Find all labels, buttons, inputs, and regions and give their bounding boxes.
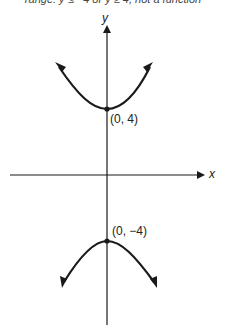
point-label-upper: (0, 4) [110, 112, 138, 126]
vertex-point-lower [104, 238, 109, 243]
upper-branch-curve [55, 62, 153, 122]
lower-branch-curve [60, 241, 157, 288]
x-axis-label: x [209, 167, 215, 181]
vertex-point-upper [104, 106, 109, 111]
y-axis-label: y [102, 11, 108, 25]
hyperbola-graph [0, 0, 226, 330]
point-label-lower: (0, −4) [112, 224, 147, 238]
